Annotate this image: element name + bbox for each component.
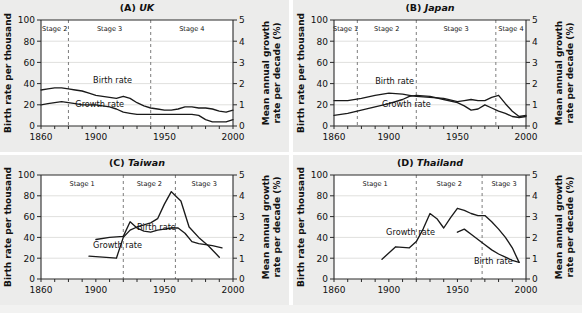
stage-label-1: Stage 1 <box>69 180 94 188</box>
series-label-birth-rate: Birth rate <box>137 222 176 232</box>
stage-label-2: Stage 2 <box>374 25 399 33</box>
left-tick-label-0: 0 <box>29 274 35 284</box>
x-tick-label-1900: 1900 <box>84 132 107 142</box>
left-tick-label-60: 60 <box>317 58 329 68</box>
left-tick-label-40: 40 <box>317 233 329 243</box>
right-tick-label-4: 4 <box>239 191 245 201</box>
series-label-growth-rate: Growth rate <box>386 227 435 237</box>
left-tick-label-100: 100 <box>18 15 35 25</box>
left-tick-label-80: 80 <box>24 191 36 201</box>
panel-title-country: UK <box>139 2 155 13</box>
right-tick-label-1: 1 <box>239 254 245 264</box>
left-axis-title: Birth rate per thousand <box>296 167 306 287</box>
right-tick-label-1: 1 <box>532 100 538 110</box>
panel-title: (B) Japan <box>405 2 454 13</box>
left-tick-label-0: 0 <box>322 121 328 131</box>
x-tick-label-1860: 1860 <box>323 285 346 295</box>
x-tick-label-1950: 1950 <box>446 285 469 295</box>
demographic-transition-figure: (A) UKStage 2Stage 3Stage 4Birth rateGro… <box>0 0 582 313</box>
right-tick-label-2: 2 <box>239 233 245 243</box>
right-tick-label-0: 0 <box>532 121 538 131</box>
left-tick-label-0: 0 <box>322 274 328 284</box>
panel-title-prefix: (C) <box>109 157 128 168</box>
panel-d-thailand: (D) ThailandStage 1Stage 2Stage 3Birth r… <box>293 155 582 305</box>
panel-title-country: Taiwan <box>128 157 165 168</box>
right-tick-label-3: 3 <box>239 212 245 222</box>
panel-title: (C) Taiwan <box>109 157 165 168</box>
right-axis-title-line1: Mean annual growth <box>554 21 564 125</box>
left-tick-label-100: 100 <box>18 170 35 180</box>
left-tick-label-80: 80 <box>24 37 36 47</box>
right-tick-label-5: 5 <box>532 170 538 180</box>
x-tick-label-2000: 2000 <box>222 132 245 142</box>
x-tick-label-2000: 2000 <box>515 285 538 295</box>
right-tick-label-0: 0 <box>239 274 245 284</box>
stage-label-1: Stage 1 <box>362 180 387 188</box>
left-tick-label-60: 60 <box>24 212 36 222</box>
right-tick-label-3: 3 <box>532 212 538 222</box>
left-tick-label-40: 40 <box>24 233 36 243</box>
stage-label-1: Stage 1 <box>333 25 358 33</box>
series-label-birth-rate: Birth rate <box>93 75 132 85</box>
panel-title-prefix: (B) <box>405 2 424 13</box>
right-axis-title-line1: Mean annual growth <box>261 175 271 279</box>
stage-label-3: Stage 3 <box>491 180 516 188</box>
left-tick-label-20: 20 <box>24 254 36 264</box>
stage-label-4: Stage 4 <box>498 25 523 33</box>
stage-label-1: Stage 2 <box>42 25 67 33</box>
stage-label-2: Stage 2 <box>137 180 162 188</box>
right-tick-label-0: 0 <box>532 274 538 284</box>
right-axis-title-line2: rate per decade (%) <box>565 22 575 123</box>
panel-c-taiwan: (C) TaiwanStage 1Stage 2Stage 3Birth rat… <box>0 155 289 305</box>
stage-label-3: Stage 4 <box>179 25 204 33</box>
right-tick-label-2: 2 <box>532 79 538 89</box>
panel-a-uk: (A) UKStage 2Stage 3Stage 4Birth rateGro… <box>0 0 289 152</box>
panel-title-prefix: (D) <box>397 157 417 168</box>
right-tick-label-5: 5 <box>532 15 538 25</box>
figure-footer-band <box>0 305 582 313</box>
left-tick-label-20: 20 <box>317 254 329 264</box>
panel-title-country: Japan <box>423 2 455 13</box>
left-tick-label-80: 80 <box>317 37 329 47</box>
left-axis-title: Birth rate per thousand <box>296 13 306 133</box>
left-tick-label-40: 40 <box>317 79 329 89</box>
stage-label-3: Stage 3 <box>192 180 217 188</box>
right-tick-label-3: 3 <box>239 58 245 68</box>
right-axis-title-line2: rate per decade (%) <box>272 22 282 123</box>
left-tick-label-100: 100 <box>311 170 328 180</box>
left-tick-label-0: 0 <box>29 121 35 131</box>
x-tick-label-1950: 1950 <box>446 132 469 142</box>
right-axis-title-line2: rate per decade (%) <box>565 176 575 277</box>
right-tick-label-3: 3 <box>532 58 538 68</box>
stage-label-2: Stage 3 <box>97 25 122 33</box>
x-tick-label-1900: 1900 <box>84 285 107 295</box>
left-axis-title: Birth rate per thousand <box>3 13 13 133</box>
right-axis-title-line1: Mean annual growth <box>554 175 564 279</box>
right-axis-title-line2: rate per decade (%) <box>272 176 282 277</box>
x-tick-label-1860: 1860 <box>30 285 53 295</box>
panel-title-prefix: (A) <box>120 2 139 13</box>
left-tick-label-60: 60 <box>24 58 36 68</box>
series-label-growth-rate: Growth rate <box>93 240 142 250</box>
stage-label-3: Stage 3 <box>443 25 468 33</box>
x-tick-label-2000: 2000 <box>222 285 245 295</box>
left-tick-label-100: 100 <box>311 15 328 25</box>
x-tick-label-1860: 1860 <box>323 132 346 142</box>
right-tick-label-1: 1 <box>239 100 245 110</box>
panel-b-japan: (B) JapanStage 1Stage 2Stage 3Stage 4Bir… <box>293 0 582 152</box>
x-tick-label-1950: 1950 <box>153 285 176 295</box>
left-tick-label-60: 60 <box>317 212 329 222</box>
left-tick-label-20: 20 <box>317 100 329 110</box>
series-label-growth-rate: Growth rate <box>382 99 431 109</box>
panel-title: (D) Thailand <box>397 157 463 168</box>
right-tick-label-4: 4 <box>532 191 538 201</box>
x-tick-label-2000: 2000 <box>515 132 538 142</box>
x-tick-label-1860: 1860 <box>30 132 53 142</box>
left-tick-label-20: 20 <box>24 100 36 110</box>
right-tick-label-1: 1 <box>532 254 538 264</box>
x-tick-label-1900: 1900 <box>377 285 400 295</box>
panel-title: (A) UK <box>120 2 155 13</box>
plot-area <box>41 20 233 126</box>
right-tick-label-2: 2 <box>532 233 538 243</box>
x-tick-label-1950: 1950 <box>153 132 176 142</box>
